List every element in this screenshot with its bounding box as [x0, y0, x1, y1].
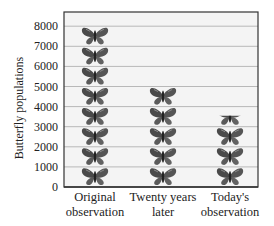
butterfly-pictograph-chart: Butterfly populations 010002000300040005…	[0, 0, 274, 226]
x-tick-label: Today'sobservation	[190, 190, 270, 220]
